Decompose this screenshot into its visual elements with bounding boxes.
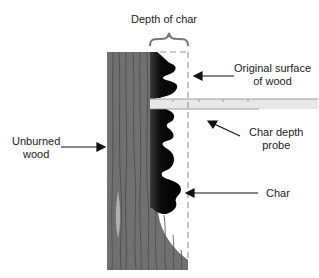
- unburned-wood-label-line2: wood: [12, 148, 60, 161]
- char-label: Char: [266, 187, 290, 200]
- unburned-wood-label: Unburned wood: [12, 135, 60, 161]
- char-depth-probe-label-line1: Char depth: [249, 126, 303, 139]
- depth-of-char-label: Depth of char: [131, 13, 197, 26]
- probe-arrow: [212, 123, 240, 136]
- depth-bracket: [150, 33, 188, 46]
- char-depth-probe-label: Char depth probe: [249, 126, 303, 152]
- original-surface-label-line2: of wood: [234, 75, 311, 88]
- original-surface-label-line1: Original surface: [234, 62, 311, 75]
- char-depth-probe-label-line2: probe: [249, 139, 303, 152]
- unburned-wood-label-line1: Unburned: [12, 135, 60, 148]
- char-layer: [150, 52, 181, 214]
- original-surface-label: Original surface of wood: [234, 62, 311, 88]
- char-depth-probe: [150, 99, 318, 109]
